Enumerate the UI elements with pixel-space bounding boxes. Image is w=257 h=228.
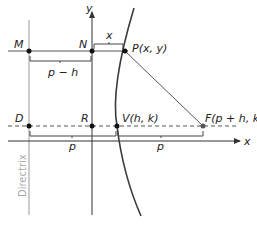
- label-distance-np: x: [105, 29, 113, 42]
- label-f: F(p + h, k): [205, 112, 257, 125]
- label-d: D: [15, 112, 23, 125]
- label-x-axis: x: [243, 135, 251, 148]
- label-v: V(h, k): [122, 112, 158, 125]
- bracket-p-dv: [30, 131, 116, 138]
- bracket-x: [94, 42, 123, 49]
- label-p: P(x, y): [132, 42, 167, 55]
- point-m: [27, 49, 32, 54]
- parabola-diagram: y x M N P(x, y) D R V(h, k) F(p + h, k) …: [0, 0, 257, 228]
- point-n: [90, 49, 95, 54]
- label-distance-dv: p: [68, 140, 76, 153]
- label-directrix: Directrix: [17, 154, 28, 197]
- point-p: [123, 49, 128, 54]
- bracket-p-minus-h: [30, 56, 91, 63]
- label-m: M: [14, 38, 24, 51]
- label-n: N: [79, 38, 87, 51]
- label-distance-vf: p: [156, 140, 164, 153]
- point-v: [115, 124, 120, 129]
- point-d: [27, 124, 32, 129]
- label-distance-mn: p − h: [47, 66, 78, 79]
- point-r: [90, 124, 95, 129]
- label-r: R: [81, 112, 89, 125]
- bracket-p-vf: [118, 131, 203, 138]
- label-y-axis: y: [85, 2, 93, 15]
